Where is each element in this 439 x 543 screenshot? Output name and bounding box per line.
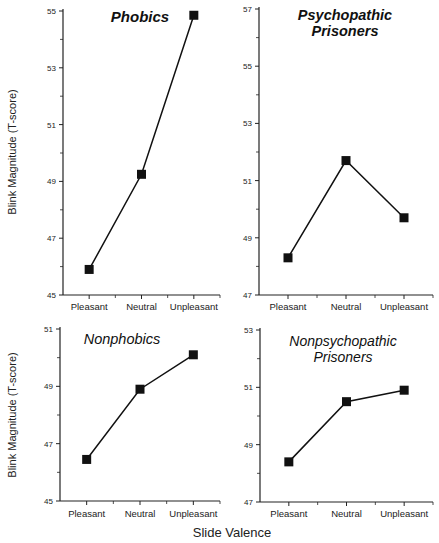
x-category-label: Neutral (125, 508, 156, 519)
y-tick-label: 53 (243, 119, 252, 128)
x-category-label: Neutral (331, 508, 362, 519)
data-point-marker (400, 213, 409, 222)
y-tick-label: 51 (244, 383, 253, 392)
data-point-marker (342, 397, 351, 406)
x-category-label: Unpleasant (380, 301, 428, 312)
y-tick-label: 57 (243, 5, 252, 14)
y-tick-label: 51 (47, 121, 56, 130)
panel-psychopathic-prisoners: 474951535557PleasantNeutralUnpleasantPsy… (243, 5, 433, 312)
data-point-marker (342, 156, 351, 165)
data-point-marker (189, 350, 198, 359)
data-point-marker (136, 385, 145, 394)
x-category-label: Neutral (126, 301, 157, 312)
x-axis-label: Slide Valence (193, 525, 272, 540)
x-category-label: Pleasant (270, 301, 307, 312)
data-point-marker (284, 457, 293, 466)
x-category-label: Pleasant (71, 301, 108, 312)
panel-title: Nonphobics (84, 331, 161, 347)
y-tick-label: 47 (243, 291, 252, 300)
x-category-label: Unpleasant (169, 508, 217, 519)
x-category-label: Neutral (331, 301, 362, 312)
x-category-label: Pleasant (68, 508, 105, 519)
y-axis-label-bottom: Blink Magnitude (T-score) (6, 352, 18, 477)
data-point-marker (189, 11, 198, 20)
data-point-marker (137, 170, 146, 179)
y-axis-label-top: Blink Magnitude (T-score) (6, 89, 18, 214)
panel-title: Psychopathic (298, 7, 392, 23)
x-category-label: Pleasant (270, 508, 307, 519)
y-tick-label: 49 (243, 234, 252, 243)
y-tick-label: 51 (243, 177, 252, 186)
data-line (89, 15, 194, 269)
panel-title: Prisoners (312, 23, 379, 39)
y-tick-label: 55 (243, 62, 252, 71)
y-tick-label: 53 (244, 326, 253, 335)
data-line (87, 355, 194, 460)
data-point-marker (400, 386, 409, 395)
panel-nonphobics: 45474951PleasantNeutralUnpleasantNonphob… (44, 325, 220, 519)
panel-title: Phobics (111, 8, 169, 25)
y-tick-label: 51 (44, 325, 53, 334)
x-category-label: Unpleasant (380, 508, 428, 519)
data-point-marker (85, 265, 94, 274)
panel-title: Nonpsychopathic (289, 333, 396, 349)
y-tick-label: 45 (47, 291, 56, 300)
y-tick-label: 47 (47, 234, 56, 243)
y-tick-label: 47 (44, 440, 53, 449)
data-point-marker (284, 253, 293, 262)
y-tick-label: 49 (44, 382, 53, 391)
panel-nonpsychopathic-prisoners: 47495153PleasantNeutralUnpleasantNonpsyc… (244, 326, 433, 519)
y-tick-label: 53 (47, 64, 56, 73)
data-line (288, 161, 404, 258)
panel-title: Prisoners (313, 349, 372, 365)
x-category-label: Unpleasant (170, 301, 218, 312)
panel-phobics: 454749515355PleasantNeutralUnpleasantPho… (47, 7, 220, 312)
y-tick-label: 55 (47, 7, 56, 16)
figure: 454749515355PleasantNeutralUnpleasantPho… (0, 0, 439, 543)
data-point-marker (82, 455, 91, 464)
y-tick-label: 45 (44, 497, 53, 506)
y-tick-label: 49 (244, 441, 253, 450)
y-tick-label: 49 (47, 177, 56, 186)
y-tick-label: 47 (244, 498, 253, 507)
